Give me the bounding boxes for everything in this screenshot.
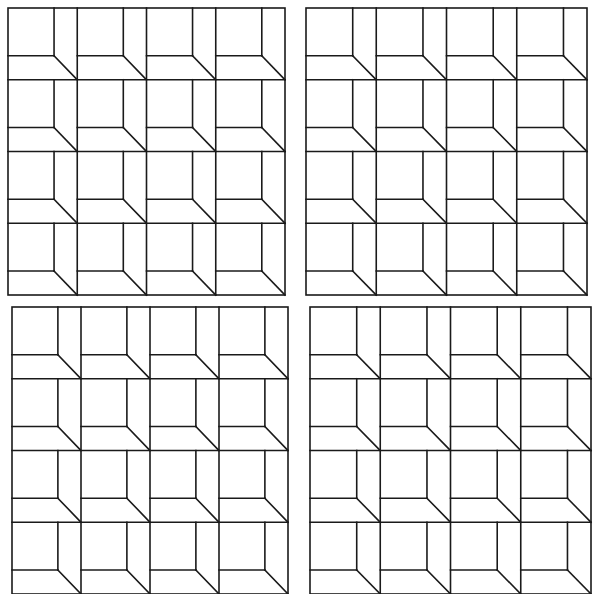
tile-panel-bottom-right xyxy=(310,307,591,594)
tile-diagonal xyxy=(493,271,517,295)
tile-diagonal xyxy=(563,56,587,80)
tile-diagonal xyxy=(196,498,219,522)
tile-diagonal xyxy=(353,127,377,151)
tile-diagonal xyxy=(493,56,517,80)
tile-diagonal xyxy=(265,426,288,450)
tile-diagonal xyxy=(357,426,381,450)
tile-diagonal xyxy=(493,127,517,151)
tile-diagonal xyxy=(423,199,447,223)
tile-diagonal xyxy=(563,199,587,223)
tile-panel-bottom-left xyxy=(12,307,288,594)
tile-diagonal xyxy=(357,355,381,379)
tile-diagonal xyxy=(497,570,521,594)
figure-stage xyxy=(0,0,596,594)
tile-panel-top-right xyxy=(306,8,587,295)
tile-diagonal xyxy=(357,498,381,522)
tile-diagonal xyxy=(58,355,81,379)
tile-diagonal xyxy=(497,498,521,522)
tile-diagonal xyxy=(567,355,591,379)
tile-diagonal xyxy=(58,570,81,594)
tile-diagonal xyxy=(127,570,150,594)
tile-diagonal xyxy=(497,426,521,450)
tile-diagonal xyxy=(262,127,285,151)
tile-diagonal xyxy=(423,127,447,151)
tile-diagonal xyxy=(123,127,146,151)
tile-grid-drawing xyxy=(8,8,285,295)
tile-diagonal xyxy=(58,498,81,522)
tile-diagonal xyxy=(127,426,150,450)
tile-diagonal xyxy=(423,271,447,295)
tile-diagonal xyxy=(262,199,285,223)
tile-diagonal xyxy=(353,271,377,295)
tile-diagonal xyxy=(54,199,77,223)
tile-diagonal xyxy=(123,199,146,223)
tile-diagonal xyxy=(427,570,451,594)
tile-diagonal xyxy=(427,498,451,522)
tile-diagonal xyxy=(493,199,517,223)
tile-grid-drawing xyxy=(310,307,591,594)
tile-diagonal xyxy=(427,355,451,379)
tile-diagonal xyxy=(193,56,216,80)
tile-diagonal xyxy=(54,271,77,295)
tile-diagonal xyxy=(193,127,216,151)
tile-diagonal xyxy=(193,271,216,295)
tile-panel-top-left xyxy=(8,8,285,295)
tile-diagonal xyxy=(196,570,219,594)
tile-grid-drawing xyxy=(306,8,587,295)
tile-diagonal xyxy=(127,498,150,522)
tile-grid-drawing xyxy=(12,307,288,594)
tile-diagonal xyxy=(357,570,381,594)
tile-diagonal xyxy=(262,271,285,295)
tile-diagonal xyxy=(563,271,587,295)
tile-diagonal xyxy=(196,426,219,450)
tile-diagonal xyxy=(127,355,150,379)
tile-diagonal xyxy=(58,426,81,450)
tile-diagonal xyxy=(497,355,521,379)
tile-diagonal xyxy=(262,56,285,80)
tile-diagonal xyxy=(567,426,591,450)
tile-diagonal xyxy=(427,426,451,450)
tile-diagonal xyxy=(123,271,146,295)
tile-diagonal xyxy=(567,570,591,594)
tile-diagonal xyxy=(265,570,288,594)
tile-diagonal xyxy=(123,56,146,80)
tile-diagonal xyxy=(423,56,447,80)
tile-diagonal xyxy=(353,199,377,223)
tile-diagonal xyxy=(196,355,219,379)
tile-diagonal xyxy=(193,199,216,223)
tile-diagonal xyxy=(563,127,587,151)
tile-diagonal xyxy=(567,498,591,522)
tile-diagonal xyxy=(265,498,288,522)
tile-diagonal xyxy=(54,56,77,80)
tile-diagonal xyxy=(54,127,77,151)
tile-diagonal xyxy=(353,56,377,80)
tile-diagonal xyxy=(265,355,288,379)
